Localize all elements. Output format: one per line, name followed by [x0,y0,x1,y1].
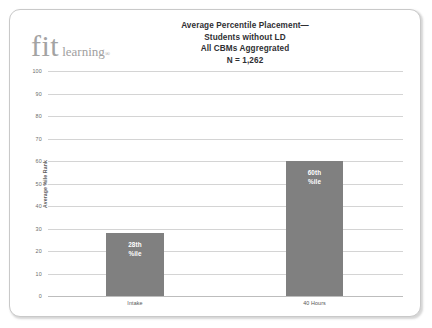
bar-value-label: 28th%ile [106,240,164,258]
y-axis-tick-20: 20 [36,248,42,254]
bar-40-hours: 60th%ile [286,161,343,296]
y-axis-tick-0: 0 [39,293,42,299]
logo-secondary-text: learning [62,45,105,58]
y-axis-tick-40: 40 [36,203,42,209]
gridline-40 [48,206,403,207]
gridline-10 [48,274,403,275]
gridline-0 [48,296,403,297]
chart-title-line-4: N = 1,262 [130,55,360,67]
y-axis-tick-70: 70 [36,136,42,142]
slide-card: fit learning ® Average Percentile Placem… [9,9,421,317]
gridline-50 [48,184,403,185]
gridline-80 [48,116,403,117]
fit-learning-logo: fit learning ® [31,31,110,61]
chart-title-line-1: Average Percentile Placement— [130,20,360,32]
bar-value-label: 60th%ile [286,168,343,186]
y-axis-tick-60: 60 [36,158,42,164]
gridline-90 [48,94,403,95]
gridline-100 [48,71,403,72]
y-axis-tick-30: 30 [36,226,42,232]
gridline-70 [48,139,403,140]
y-axis-tick-50: 50 [36,181,42,187]
y-axis-tick-10: 10 [36,271,42,277]
logo-primary-text: fit [31,31,59,61]
y-axis-tick-100: 100 [32,68,42,74]
chart-plot-area: Average %ile Rank 1009080706050403020100… [48,71,403,296]
gridline-20 [48,251,403,252]
bar-value-line: %ile [106,249,164,258]
chart-title-line-3: All CBMs Aggregrated [130,43,360,55]
chart-title: Average Percentile Placement— Students w… [130,20,360,66]
gridline-60 [48,161,403,162]
chart-title-line-2: Students without LD [130,32,360,44]
gridline-30 [48,229,403,230]
y-axis-tick-80: 80 [36,113,42,119]
y-axis-tick-90: 90 [36,91,42,97]
registered-trademark-icon: ® [105,51,110,58]
bar-value-line: 60th [286,168,343,177]
bar-intake: 28th%ile [106,233,164,296]
bar-value-line: 28th [106,240,164,249]
bar-value-line: %ile [286,177,343,186]
x-axis-tick-intake: Intake [106,300,164,306]
x-axis-tick-40-hours: 40 Hours [286,300,343,306]
